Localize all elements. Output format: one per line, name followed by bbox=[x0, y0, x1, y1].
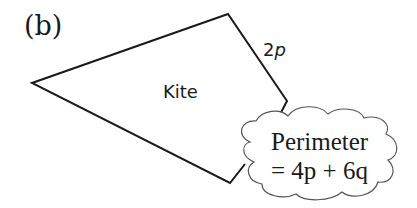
shape-label: Kite bbox=[163, 81, 198, 102]
part-label: (b) bbox=[24, 10, 62, 41]
side-coefficient: 2 bbox=[263, 39, 274, 60]
cloud-text-line2: = 4p + 6q bbox=[271, 157, 368, 185]
diagram: (b) 2p Kite Perimeter = 4p + 6q bbox=[0, 0, 417, 208]
side-length-label: 2p bbox=[263, 39, 286, 60]
cloud-text-line1: Perimeter bbox=[271, 128, 368, 156]
side-variable: p bbox=[274, 39, 285, 60]
